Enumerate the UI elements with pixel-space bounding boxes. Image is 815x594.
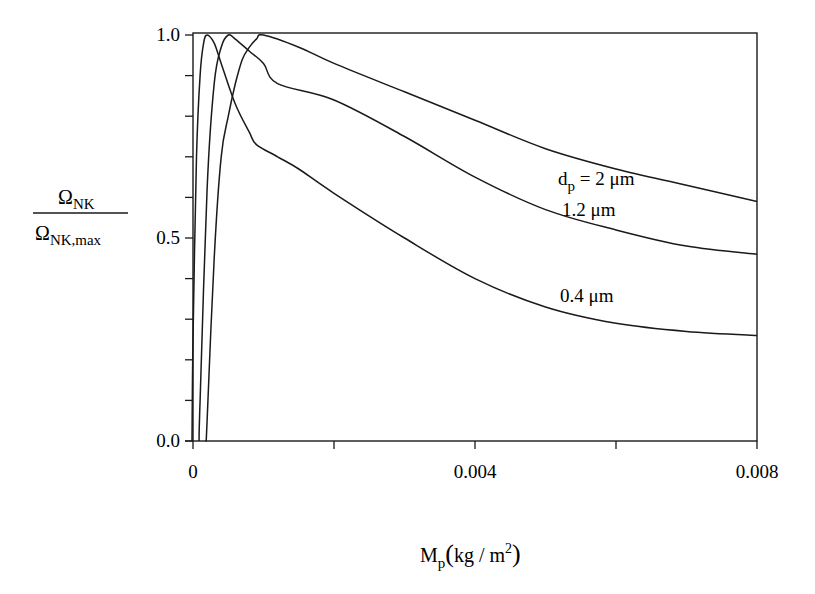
y-axis-title: ΩNK ΩNK,max xyxy=(33,186,128,248)
curve-series-1 xyxy=(199,35,757,441)
curve-label-2: 0.4 μm xyxy=(560,285,614,306)
y-title-denominator: ΩNK,max xyxy=(35,222,102,248)
y-title-numerator: ΩNK xyxy=(58,186,95,212)
chart-canvas: 0.00.51.0 00.0040.008 dp = 2 μm1.2 μm0.4… xyxy=(0,0,815,594)
plot-frame xyxy=(193,33,757,441)
x-tick-label: 0.004 xyxy=(454,461,497,482)
curve-label-1: 1.2 μm xyxy=(562,199,616,220)
curve-labels: dp = 2 μm1.2 μm0.4 μm xyxy=(558,168,635,306)
x-axis-ticks: 00.0040.008 xyxy=(185,441,778,482)
data-curves xyxy=(192,35,757,442)
x-axis-title: Mp(kg / m2) xyxy=(420,539,521,571)
y-tick-label: 0.0 xyxy=(156,430,180,451)
y-axis-ticks: 0.00.51.0 xyxy=(156,24,193,451)
y-tick-label: 0.5 xyxy=(156,227,180,248)
x-tick-label: 0 xyxy=(188,461,198,482)
x-tick-label: 0.008 xyxy=(736,461,779,482)
y-tick-label: 1.0 xyxy=(156,24,180,45)
curve-series-2 xyxy=(192,35,757,441)
curve-label-0: dp = 2 μm xyxy=(558,168,635,194)
curve-series-0 xyxy=(206,35,757,441)
plot-border xyxy=(193,33,757,441)
